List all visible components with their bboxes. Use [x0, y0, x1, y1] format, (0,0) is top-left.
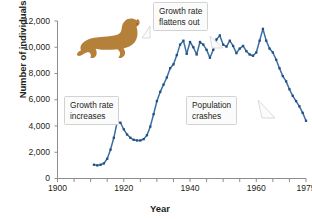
data-point: [295, 100, 297, 102]
data-point: [209, 57, 211, 59]
sea-lion-body: [77, 19, 140, 58]
data-point: [99, 164, 101, 166]
data-point: [245, 50, 247, 52]
data-point: [292, 95, 294, 97]
data-point: [113, 137, 115, 139]
data-point: [258, 40, 260, 42]
y-axis-tick-label: 12,000: [6, 16, 50, 26]
data-point: [252, 55, 254, 57]
callout-population-crashes-line1: Population: [192, 100, 231, 111]
data-point: [275, 59, 277, 61]
callout-growth-increases-line1: Growth rate: [70, 100, 113, 111]
data-point: [139, 139, 141, 141]
data-point: [202, 43, 204, 45]
y-axis-tick-label: 6,000: [6, 94, 50, 104]
y-axis-tick-label: 4,000: [6, 121, 50, 131]
callout-growth-flattens-line1: Growth rate: [159, 6, 202, 17]
data-point: [305, 120, 307, 122]
data-point: [239, 47, 241, 49]
data-point: [285, 80, 287, 82]
callout-growth-increases: Growth rate increases: [64, 96, 119, 125]
data-point: [103, 162, 105, 164]
data-point: [272, 51, 274, 53]
sea-lion-silhouette-icon: [74, 16, 144, 58]
data-point: [282, 75, 284, 77]
data-point: [152, 113, 154, 115]
data-point: [133, 139, 135, 141]
data-point: [232, 45, 234, 47]
data-point: [242, 45, 244, 47]
data-point: [212, 49, 214, 51]
callout-population-crashes: Population crashes: [186, 96, 237, 125]
data-point: [126, 133, 128, 135]
x-axis-tick-label: 1920: [104, 183, 144, 193]
data-point: [215, 38, 217, 40]
y-axis-tick-label: 8,000: [6, 68, 50, 78]
callout-growth-flattens-line2: flattens out: [159, 17, 202, 28]
chart-figure: Number of individuals Year 12,00010,0008…: [0, 0, 312, 219]
data-point: [182, 40, 184, 42]
data-point: [268, 47, 270, 49]
data-point: [146, 134, 148, 136]
data-point: [265, 40, 267, 42]
data-point: [149, 126, 151, 128]
data-point: [229, 40, 231, 42]
data-point: [249, 53, 251, 55]
y-axis-tick-label: 10,000: [6, 42, 50, 52]
x-axis-ticks: [58, 179, 307, 183]
data-point: [106, 158, 108, 160]
x-axis-tick-label: 1960: [236, 183, 276, 193]
y-axis-tick-label: 0: [6, 173, 50, 183]
data-point: [302, 112, 304, 114]
data-point: [235, 52, 237, 54]
data-point: [219, 34, 221, 36]
y-axis-tick-label: 2,000: [6, 147, 50, 157]
data-point: [143, 138, 145, 140]
data-point: [93, 164, 95, 166]
data-point: [288, 88, 290, 90]
data-point: [205, 49, 207, 51]
data-point: [222, 43, 224, 45]
x-axis-title: Year: [100, 203, 220, 214]
data-point: [196, 53, 198, 55]
data-point: [129, 137, 131, 139]
sea-lion-eye: [136, 23, 138, 25]
data-point: [176, 54, 178, 56]
data-point: [278, 67, 280, 69]
leader-population-crashes: [258, 100, 275, 118]
x-axis-tick-label: 1900: [38, 183, 78, 193]
callout-growth-increases-line2: increases: [70, 111, 113, 122]
data-point: [119, 122, 121, 124]
data-point: [156, 100, 158, 102]
x-axis-tick-label: 1975: [286, 183, 312, 193]
data-point: [96, 164, 98, 166]
data-point: [262, 28, 264, 30]
x-axis-tick-label: 1940: [170, 183, 210, 193]
data-point: [123, 128, 125, 130]
data-point: [172, 63, 174, 65]
data-point: [225, 45, 227, 47]
data-point: [298, 105, 300, 107]
data-point: [159, 91, 161, 93]
data-point: [192, 46, 194, 48]
data-point: [166, 76, 168, 78]
data-point: [169, 67, 171, 69]
data-point: [199, 41, 201, 43]
data-point: [186, 53, 188, 55]
data-point: [162, 84, 164, 86]
data-point: [255, 51, 257, 53]
data-point: [136, 139, 138, 141]
callout-growth-flattens: Growth rate flattens out: [153, 2, 208, 31]
data-point: [179, 43, 181, 45]
data-point: [189, 41, 191, 43]
callout-population-crashes-line2: crashes: [192, 111, 231, 122]
data-point: [109, 148, 111, 150]
